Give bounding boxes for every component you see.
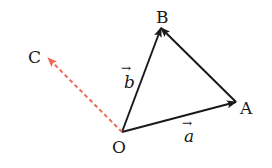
point-label-b: B [156, 7, 169, 27]
point-label-c: C [28, 47, 41, 67]
vector-oa [122, 102, 236, 132]
point-label-o: O [112, 137, 126, 157]
vector-ab [161, 28, 236, 102]
point-label-a: A [239, 98, 253, 118]
vector-arrow-b: → [121, 61, 131, 75]
vector-oc [48, 58, 122, 132]
vector-label-b: b [124, 72, 135, 92]
vector-diagram: B C A O b → a → [0, 0, 272, 168]
vector-arrow-a: → [182, 116, 192, 130]
